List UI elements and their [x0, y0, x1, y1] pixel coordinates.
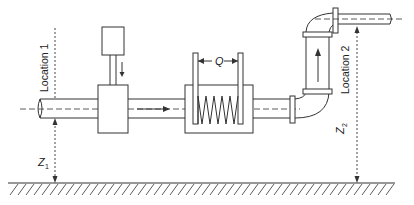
location-2-label: Location 2: [339, 45, 351, 94]
elbow-bend-lower: [295, 92, 329, 118]
z1-label: Z 1: [37, 156, 49, 170]
ground-datum: [8, 183, 395, 195]
vertical-flange-top: [303, 32, 332, 37]
pump-housing: [98, 85, 128, 133]
elbow-bend-upper: [306, 13, 333, 32]
location-1-label: Location 1: [38, 43, 50, 92]
pipe-section-outlet: [253, 99, 290, 118]
inlet-pipe: [38, 99, 98, 118]
motor: [102, 27, 124, 85]
upper-flange: [333, 8, 338, 33]
flow-rate-label: Q: [215, 55, 224, 67]
vertical-flange-bottom: [303, 89, 332, 94]
pumping-system-diagram: Location 1 Location 2 Z 1 Z 2 Q: [0, 0, 414, 205]
z1-dimension: [53, 118, 58, 183]
lower-flange: [290, 96, 295, 123]
flow-direction-arrow-icon: [137, 106, 170, 112]
svg-text:1: 1: [45, 163, 49, 170]
svg-text:2: 2: [341, 123, 348, 127]
upward-flow-arrow-icon: [315, 48, 321, 82]
z2-label: Z 2: [334, 123, 348, 135]
z2-dimension: [355, 26, 360, 183]
motor-direction-arrow-icon: [120, 62, 125, 77]
